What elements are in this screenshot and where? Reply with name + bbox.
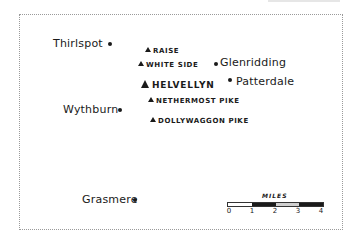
scale-tick-4: 4 [317,207,325,215]
town-dot-icon [228,78,232,82]
scale-segment [252,203,276,206]
scale-segment [276,203,300,206]
peak-label-white-side: WHITE SIDE [146,61,198,69]
peak-label-nethermost-pike: NETHERMOST PIKE [156,97,240,105]
peak-triangle-icon [141,80,149,88]
peak-triangle-icon [145,47,151,52]
town-dot-icon [118,108,122,112]
peak-triangle-icon [148,97,154,102]
peak-triangle-icon [150,117,156,122]
town-dot-icon [133,198,137,202]
scale-title: MILES [262,192,287,199]
peak-label-dollywaggon-pike: DOLLYWAGGON PIKE [158,117,249,125]
scale-tick-1: 1 [248,207,256,215]
top-edge-bar [268,0,340,2]
peak-triangle-icon [138,61,144,66]
peak-label-helvellyn: HELVELLYN [152,80,215,90]
town-label-glenridding: Glenridding [220,57,286,69]
scale-segment [228,203,252,206]
town-label-wythburn: Wythburn [63,104,118,116]
town-label-grasmere: Grasmere [82,194,138,206]
scale-tick-2: 2 [271,207,279,215]
scale-tick-0: 0 [225,207,233,215]
scale-segment [299,203,323,206]
peak-label-raise: RAISE [153,47,179,55]
town-dot-icon [108,42,112,46]
town-label-thirlspot: Thirlspot [53,38,103,50]
scale-tick-3: 3 [294,207,302,215]
town-label-patterdale: Patterdale [236,76,294,88]
town-dot-icon [214,62,218,66]
